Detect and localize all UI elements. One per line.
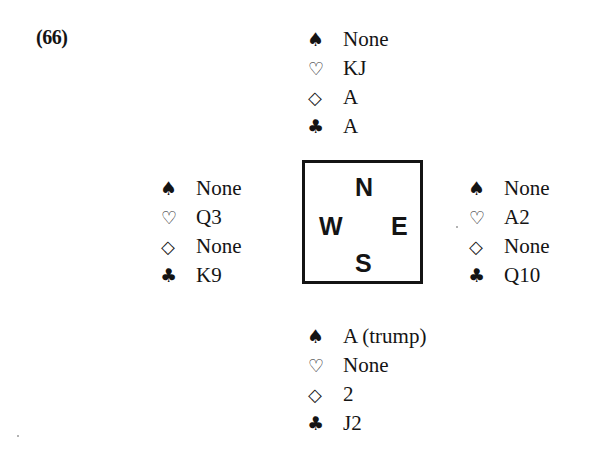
spade-icon: ♠ — [307, 29, 343, 50]
compass-box: N W E S — [302, 160, 423, 284]
north-spades-row: ♠ None — [307, 25, 389, 54]
south-clubs-row: ♣ J2 — [307, 409, 426, 438]
west-hearts-row: ♡ Q3 — [160, 203, 242, 232]
east-clubs-row: ♣ Q10 — [468, 261, 550, 290]
club-icon: ♣ — [160, 265, 196, 286]
west-clubs: K9 — [196, 265, 222, 286]
east-spades-row: ♠ None — [468, 174, 550, 203]
south-diamonds: 2 — [343, 384, 354, 405]
east-hearts-row: ♡ A2 — [468, 203, 550, 232]
east-hearts: A2 — [504, 207, 530, 228]
south-diamonds-row: ◇ 2 — [307, 380, 426, 409]
north-clubs: A — [343, 116, 358, 137]
west-diamonds-row: ◇ None — [160, 232, 242, 261]
east-diamonds: None — [504, 236, 550, 257]
east-clubs: Q10 — [504, 265, 540, 286]
west-hearts: Q3 — [196, 207, 222, 228]
west-spades-row: ♠ None — [160, 174, 242, 203]
heart-icon: ♡ — [308, 355, 344, 376]
compass-south-label: S — [355, 251, 372, 276]
west-diamonds: None — [196, 236, 242, 257]
south-hearts-row: ♡ None — [307, 351, 426, 380]
west-spades: None — [196, 178, 242, 199]
north-diamonds-row: ◇ A — [307, 83, 389, 112]
spade-icon: ♠ — [307, 326, 343, 347]
heart-icon: ♡ — [469, 207, 505, 228]
compass-west-label: W — [319, 214, 343, 239]
spade-icon: ♠ — [468, 178, 504, 199]
diamond-icon: ◇ — [469, 236, 505, 257]
east-spades: None — [504, 178, 550, 199]
north-hearts-row: ♡ KJ — [307, 54, 389, 83]
club-icon: ♣ — [307, 413, 343, 434]
scan-speck — [456, 226, 458, 228]
south-spades: A (trump) — [343, 326, 426, 347]
club-icon: ♣ — [468, 265, 504, 286]
spade-icon: ♠ — [160, 178, 196, 199]
south-clubs: J2 — [343, 413, 362, 434]
diamond-icon: ◇ — [308, 384, 344, 405]
east-hand: ♠ None ♡ A2 ◇ None ♣ Q10 — [468, 174, 550, 290]
problem-number: (66) — [36, 26, 67, 49]
diamond-icon: ◇ — [161, 236, 197, 257]
east-diamonds-row: ◇ None — [468, 232, 550, 261]
west-hand: ♠ None ♡ Q3 ◇ None ♣ K9 — [160, 174, 242, 290]
heart-icon: ♡ — [161, 207, 197, 228]
north-clubs-row: ♣ A — [307, 112, 389, 141]
north-spades: None — [343, 29, 389, 50]
compass-east-label: E — [391, 214, 408, 239]
south-spades-row: ♠ A (trump) — [307, 322, 426, 351]
north-diamonds: A — [343, 87, 358, 108]
heart-icon: ♡ — [308, 58, 344, 79]
west-clubs-row: ♣ K9 — [160, 261, 242, 290]
club-icon: ♣ — [307, 116, 343, 137]
north-hand: ♠ None ♡ KJ ◇ A ♣ A — [307, 25, 389, 141]
south-hand: ♠ A (trump) ♡ None ◇ 2 ♣ J2 — [307, 322, 426, 438]
south-hearts: None — [343, 355, 389, 376]
scan-speck — [17, 435, 19, 437]
compass-north-label: N — [355, 175, 373, 200]
diamond-icon: ◇ — [308, 87, 344, 108]
north-hearts: KJ — [343, 58, 366, 79]
